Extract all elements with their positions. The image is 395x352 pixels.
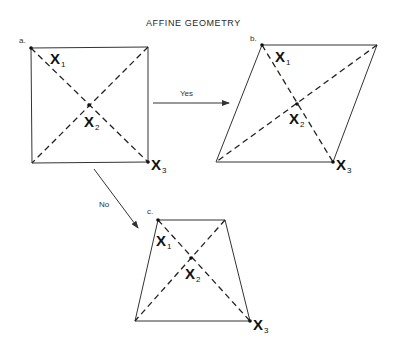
diagram-title: AFFINE GEOMETRY	[146, 18, 241, 28]
x1-subscript: 1	[61, 60, 66, 69]
x3-label: X	[151, 156, 161, 173]
x2-subscript: 2	[300, 120, 305, 129]
x3-subscript: 3	[347, 166, 352, 175]
x1-label: X	[50, 50, 60, 67]
affine-geometry-diagram: AFFINE GEOMETRY a. X 1 X 2 X 3 Yes b. X …	[0, 0, 395, 352]
x1-subscript: 1	[167, 242, 172, 251]
figure-b-parallelogram: b. X 1 X 2 X 3	[216, 34, 377, 175]
no-arrow: No	[94, 169, 138, 228]
point-x2	[189, 256, 193, 260]
x3-subscript: 3	[264, 326, 269, 335]
yes-label: Yes	[180, 89, 193, 98]
x2-label: X	[84, 113, 94, 130]
point-x3	[248, 319, 252, 323]
x1-label: X	[156, 232, 166, 249]
point-x3	[146, 160, 150, 164]
x1-label: X	[275, 48, 285, 65]
figure-c-trapezoid: c. X 1 X 2 X 3	[135, 207, 269, 335]
x2-label: X	[289, 110, 299, 127]
yes-arrow: Yes	[153, 89, 229, 103]
point-x2	[295, 102, 299, 106]
x2-subscript: 2	[196, 275, 201, 284]
point-x1	[156, 218, 160, 222]
arrow-down-right-icon	[94, 169, 138, 228]
no-label: No	[99, 200, 110, 209]
x2-subscript: 2	[95, 123, 100, 132]
figure-c-label: c.	[147, 207, 153, 216]
x3-label: X	[336, 156, 346, 173]
figure-a-square: a. X 1 X 2 X 3	[19, 36, 167, 175]
x1-subscript: 1	[286, 58, 291, 67]
point-x1	[260, 43, 264, 47]
point-x2	[87, 103, 91, 107]
figure-a-label: a.	[19, 36, 26, 45]
x3-subscript: 3	[162, 166, 167, 175]
diagonal-other	[135, 220, 225, 321]
diagonal-x1-x3	[158, 220, 250, 321]
point-x1	[29, 46, 33, 50]
x3-label: X	[253, 316, 263, 333]
x2-label: X	[185, 265, 195, 282]
point-x3	[331, 160, 335, 164]
figure-b-label: b.	[250, 34, 257, 43]
